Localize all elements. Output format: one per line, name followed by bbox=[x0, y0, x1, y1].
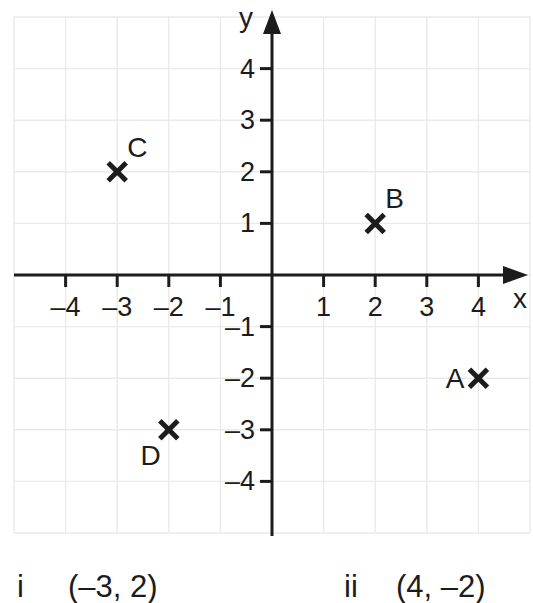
answer-i-marker: i bbox=[17, 571, 24, 602]
answer-row: i (–3, 2) ii (4, –2) bbox=[0, 548, 533, 603]
coordinate-plane: xy–4–3–2–112344321–1–2–3–4ABCD bbox=[0, 0, 533, 548]
coordinate-plane-figure: xy–4–3–2–112344321–1–2–3–4ABCD i (–3, 2)… bbox=[0, 0, 533, 603]
y-tick-label: –4 bbox=[225, 466, 255, 496]
x-tick-label: 4 bbox=[471, 292, 486, 322]
point-B-label: B bbox=[385, 183, 404, 214]
answer-ii-coords: (4, –2) bbox=[396, 571, 486, 602]
point-D-label: D bbox=[141, 440, 161, 471]
y-axis-arrow bbox=[263, 10, 281, 34]
y-tick-label: –2 bbox=[225, 363, 255, 393]
x-tick-label: –4 bbox=[51, 292, 81, 322]
y-tick-label: 1 bbox=[240, 208, 255, 238]
x-tick-label: 2 bbox=[368, 292, 383, 322]
point-C-label: C bbox=[127, 132, 147, 163]
y-tick-label: 2 bbox=[240, 157, 255, 187]
y-tick-label: –1 bbox=[225, 312, 255, 342]
y-tick-label: 4 bbox=[240, 54, 255, 84]
x-axis-label: x bbox=[513, 283, 527, 314]
x-tick-label: –2 bbox=[154, 292, 184, 322]
answer-ii-marker: ii bbox=[344, 571, 358, 602]
x-tick-label: 1 bbox=[316, 292, 331, 322]
answer-i-coords: (–3, 2) bbox=[68, 571, 158, 602]
point-A-label: A bbox=[446, 363, 465, 394]
x-tick-label: –3 bbox=[102, 292, 132, 322]
x-axis-arrow bbox=[503, 266, 528, 284]
y-tick-label: 3 bbox=[240, 105, 255, 135]
x-tick-label: 3 bbox=[419, 292, 434, 322]
y-tick-label: –3 bbox=[225, 415, 255, 445]
y-axis-label: y bbox=[239, 2, 253, 33]
